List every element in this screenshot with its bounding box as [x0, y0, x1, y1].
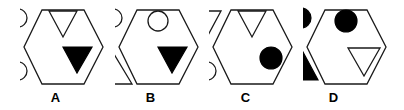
panel-a-graphic: [20, 0, 121, 92]
inside-circle-black-c: [260, 47, 282, 69]
outside-circle-black-upper-left-d: [303, 8, 311, 28]
panel-d-graphic: [303, 0, 404, 92]
panel-label-b: B: [100, 90, 201, 106]
panel-c-graphic: [209, 0, 310, 92]
inside-circle-black-d: [335, 10, 357, 32]
outside-circle-lower-left-a: [20, 62, 27, 80]
panel-label-c: C: [195, 90, 296, 106]
panel-label-d: D: [283, 90, 384, 106]
outside-circle-upper-left-a: [20, 9, 27, 27]
shape-puzzle-figure: A B C: [0, 0, 404, 110]
panel-d[interactable]: D: [303, 0, 404, 110]
panel-b-graphic: [115, 0, 216, 92]
outside-circle-lower-left-c: [209, 62, 216, 80]
outside-circle-upper-left-b: [115, 9, 122, 27]
panel-label-a: A: [5, 90, 106, 106]
inside-circle-white-b: [148, 11, 168, 31]
